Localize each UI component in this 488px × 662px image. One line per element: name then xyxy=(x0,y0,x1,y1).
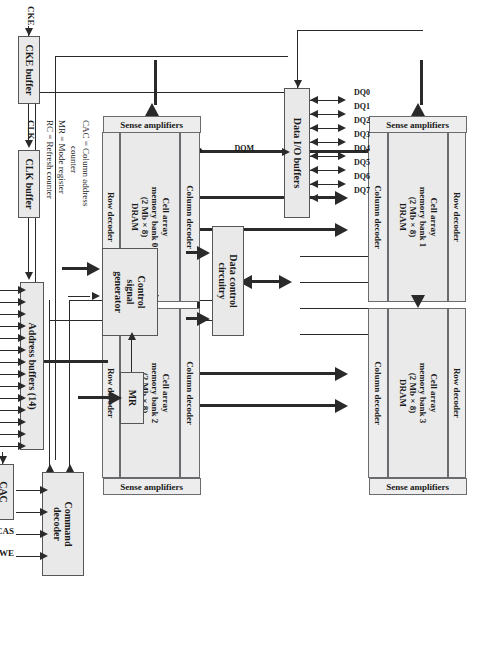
wire-csg-in-a xyxy=(62,267,90,270)
clk-buffer: CLK buffer xyxy=(18,150,40,218)
arrow-csg-in-b xyxy=(92,292,100,300)
legend-eq-2: = xyxy=(57,136,67,141)
legend-meaning-2: Mode register xyxy=(57,144,67,194)
arrow-dqm xyxy=(282,148,290,156)
wire-clk-out xyxy=(28,218,29,274)
memory-bank-3: Row decoder Cell array memory bank 3 (2 … xyxy=(370,308,466,478)
wire-mr-to-csg xyxy=(131,340,132,372)
cke-pin-label: CKE xyxy=(26,6,36,26)
arrow-row-left-b xyxy=(335,223,348,237)
legend: CAC = Column address counter MR = Mode r… xyxy=(43,120,92,206)
bank1-column-decoder: Column decoder xyxy=(368,132,388,302)
legend-meaning-1: counter xyxy=(69,146,79,173)
bank0-sense-amplifiers: Sense amplifiers xyxy=(103,116,201,133)
legend-row-1: counter xyxy=(68,120,80,206)
arrow-clk-out xyxy=(25,272,33,280)
wire-cke-out xyxy=(28,104,29,142)
dqm-label: DQM xyxy=(232,144,254,153)
wire-row-right-b xyxy=(200,404,338,407)
data-control-circuitry: Data control circuitry xyxy=(212,226,244,336)
wire-datactl-in-b xyxy=(186,317,200,320)
wire-io-left-riser xyxy=(297,30,423,31)
legend-abbr-0: CAC xyxy=(81,120,91,139)
bank2-sense-amplifiers: Sense amplifiers xyxy=(103,478,201,495)
dq-label-4: DQ4 xyxy=(352,144,370,153)
legend-abbr-2: MR xyxy=(57,120,67,134)
dq-label-2: DQ2 xyxy=(352,116,370,125)
dq-label-6: DQ6 xyxy=(352,172,370,181)
legend-row-0: CAC = Column address xyxy=(80,120,92,206)
bank3-column-decoder: Column decoder xyxy=(368,308,388,478)
wire-bank0-sense-in xyxy=(154,60,157,105)
legend-abbr-3: RC xyxy=(45,120,55,132)
legend-meaning-3: Refresh counter xyxy=(45,142,55,199)
column-address-counter: CAC xyxy=(0,464,14,520)
legend-row-2: MR = Mode register xyxy=(56,120,68,206)
bank3-row-decoder: Row decoder xyxy=(448,308,466,478)
bank1-sense-amplifiers: Sense amplifiers xyxy=(369,116,467,133)
bank0-column-decoder: Column decoder xyxy=(180,132,200,302)
legend-eq-3: = xyxy=(45,134,55,139)
memory-bank-1: Row decoder Cell array memory bank 1 (2 … xyxy=(370,132,466,302)
figure-canvas: Row decoder Cell array memory bank 1 (2 … xyxy=(0,0,488,662)
legend-eq-0: = xyxy=(81,141,91,146)
control-signal-generator: Control signal generator xyxy=(102,248,158,336)
bank2-column-decoder: Column decoder xyxy=(180,308,200,478)
command-label-we: WE xyxy=(0,548,14,558)
bank1-row-decoder: Row decoder xyxy=(448,132,466,302)
bank3-cell-array: Cell array memory bank 3 (2 Mb × 8) DRAM xyxy=(388,308,448,478)
wire-cmd-to-csg-1 xyxy=(69,300,70,472)
wire-datactl-in-a xyxy=(186,251,200,254)
arrow-bank3-column xyxy=(411,295,425,308)
arrow-row-right-b xyxy=(335,399,348,413)
arrow-cmd-out-1 xyxy=(66,464,74,472)
dq-label-7: DQ7 xyxy=(352,186,370,195)
wire-clk-riser xyxy=(36,92,288,93)
dq-label-0: DQ0 xyxy=(352,88,370,97)
wire-row-right-a xyxy=(200,372,338,375)
wire-dqm xyxy=(256,152,284,153)
command-label-cas: CAS xyxy=(0,526,14,536)
arrow-row-right-a xyxy=(335,367,348,381)
command-decoder: Command decoder xyxy=(42,472,84,576)
dq-label-3: DQ3 xyxy=(352,130,370,139)
arrow-cke-in xyxy=(25,28,33,36)
arrow-cke-out xyxy=(25,140,33,148)
cke-buffer: CKE buffer xyxy=(18,36,40,104)
bank3-sense-amplifiers: Sense amplifiers xyxy=(369,478,467,495)
wire-bank1-sense-in xyxy=(420,60,423,105)
arrow-io-left xyxy=(294,80,302,88)
wire-cke-top xyxy=(55,56,56,460)
diagram-root: Row decoder Cell array memory bank 1 (2 … xyxy=(0,0,488,662)
arrow-cac-in xyxy=(0,456,7,464)
dq-label-5: DQ5 xyxy=(352,158,370,167)
arrow-mr-in xyxy=(109,391,122,405)
wire-cmd-to-csg-2 xyxy=(49,300,50,472)
mode-register: MR xyxy=(120,372,144,424)
wire-addrbuf-up xyxy=(44,360,108,363)
legend-row-3: RC = Refresh counter xyxy=(43,120,55,206)
legend-meaning-0: Column address xyxy=(81,148,91,206)
arrow-cmd-out-2 xyxy=(46,464,54,472)
dq-label-1: DQ1 xyxy=(352,102,370,111)
wire-cke-riser xyxy=(56,56,288,57)
arrow-io-datactl-up xyxy=(279,275,292,289)
arrow-mr-to-csg xyxy=(128,332,136,340)
bank1-cell-array: Cell array memory bank 1 (2 Mb × 8) DRAM xyxy=(388,132,448,302)
wire-csg-in-b xyxy=(68,296,90,297)
